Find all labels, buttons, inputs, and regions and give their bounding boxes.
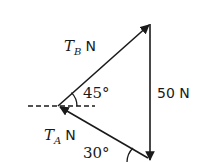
angle-45-label: 45°: [83, 84, 110, 102]
weight-label: 50 N: [157, 85, 190, 101]
tension-b-label: TBN: [64, 37, 96, 57]
angle-30-label: 30°: [83, 144, 110, 162]
force-triangle-diagram: TBN 45° 50 N TAN 30°: [0, 0, 202, 162]
tension-a-label: TAN: [44, 126, 76, 146]
angle-arc-30: [127, 148, 133, 162]
angle-arc-45: [71, 93, 77, 106]
